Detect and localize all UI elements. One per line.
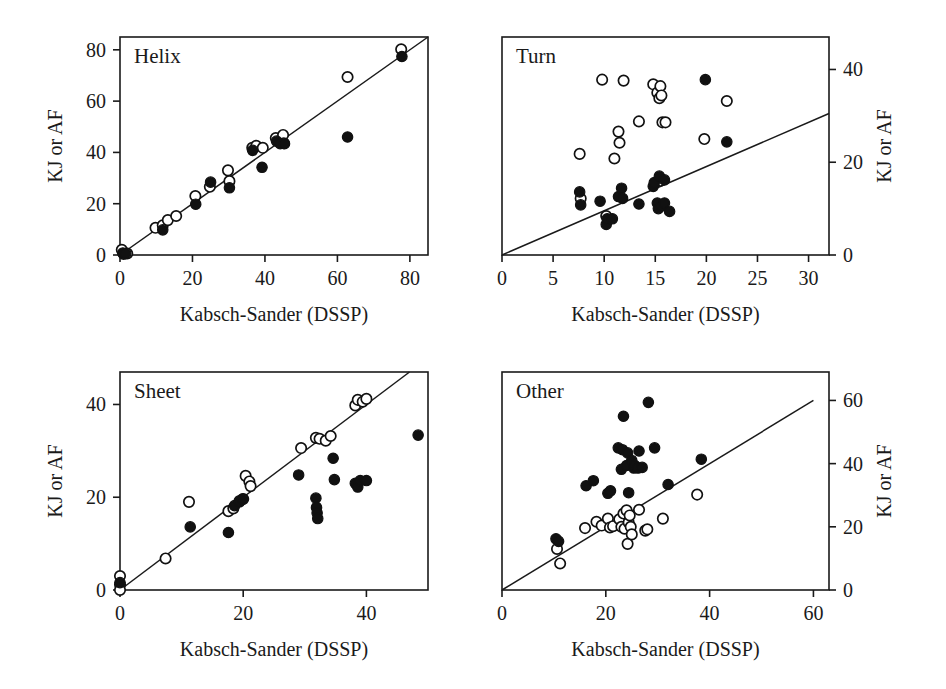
data-point-filled [224,183,234,193]
data-point-filled [574,187,584,197]
data-point-open [325,431,335,441]
data-point-filled [397,51,407,61]
data-point-filled [696,454,706,464]
data-point-filled [616,183,626,193]
data-point-open [658,513,668,523]
data-point-open [642,524,652,534]
y-tick-label: 40 [843,58,863,80]
figure-scatter-grid: 020406080020406080HelixKabsch-Sander (DS… [0,0,946,689]
data-point-open [609,153,619,163]
data-point-filled [588,475,598,485]
data-point-filled [205,177,215,187]
data-point-open [171,211,181,221]
data-point-open [614,138,624,148]
data-point-filled [700,74,710,84]
y-tick-label: 0 [843,579,853,601]
x-tick-label: 20 [182,267,202,289]
x-tick-label: 40 [255,267,275,289]
data-point-filled [664,206,674,216]
y-tick-label: 80 [86,39,106,61]
x-tick-label: 0 [115,602,125,624]
data-point-filled [115,577,125,587]
x-tick-label: 10 [594,267,614,289]
data-point-filled [659,175,669,185]
data-point-filled [663,479,673,489]
data-point-filled [607,214,617,224]
data-point-open [361,394,371,404]
data-point-open [722,96,732,106]
x-tick-label: 0 [497,602,507,624]
y-tick-label: 20 [86,486,106,508]
data-point-open [597,74,607,84]
y-tick-label: 60 [843,389,863,411]
reference-line [502,400,813,590]
y-axis-title: KJ or AF [873,444,895,517]
x-tick-label: 25 [747,267,767,289]
data-point-filled [643,397,653,407]
panel-helix: 020406080020406080HelixKabsch-Sander (DS… [0,0,473,345]
data-point-open [296,443,306,453]
x-tick-label: 40 [356,602,376,624]
x-tick-label: 5 [548,267,558,289]
x-axis-title: Kabsch-Sander (DSSP) [180,638,368,661]
data-point-open [258,143,268,153]
data-point-filled [293,470,303,480]
data-point-filled [158,225,168,235]
panel-title: Other [516,379,564,403]
data-point-filled [623,487,633,497]
y-tick-label: 60 [86,90,106,112]
data-point-filled [279,138,289,148]
data-point-filled [342,132,352,142]
data-point-filled [191,199,201,209]
data-point-filled [649,443,659,453]
data-point-filled [361,475,371,485]
data-point-filled [595,196,605,206]
x-tick-label: 20 [233,602,253,624]
data-point-filled [634,446,644,456]
data-point-open [692,489,702,499]
data-point-filled [185,522,195,532]
data-point-filled [313,513,323,523]
data-point-open [223,165,233,175]
panel-turn: 05101520253002040TurnKabsch-Sander (DSSP… [473,0,946,345]
data-point-filled [223,527,233,537]
y-tick-label: 0 [96,579,106,601]
data-point-open [660,117,670,127]
data-point-filled [553,536,563,546]
plot-frame [502,37,829,255]
data-point-open [656,90,666,100]
data-point-open [574,149,584,159]
data-point-open [699,134,709,144]
y-axis-title: KJ or AF [873,109,895,182]
data-point-open [160,553,170,563]
data-point-filled [328,453,338,463]
x-tick-label: 0 [497,267,507,289]
y-tick-label: 0 [96,244,106,266]
data-point-filled [722,137,732,147]
data-point-filled [237,494,247,504]
x-tick-label: 60 [327,267,347,289]
y-tick-label: 40 [86,141,106,163]
data-point-filled [121,248,131,258]
y-tick-label: 40 [86,393,106,415]
data-point-filled [329,474,339,484]
panel-sheet: 0204002040SheetKabsch-Sander (DSSP)KJ or… [0,345,473,689]
x-tick-label: 40 [700,602,720,624]
y-axis-title: KJ or AF [44,109,66,182]
data-point-open [342,72,352,82]
data-point-filled [617,193,627,203]
data-point-filled [637,462,647,472]
data-point-open [634,505,644,515]
data-point-open [634,116,644,126]
data-point-open [580,523,590,533]
panel-other: 02040600204060OtherKabsch-Sander (DSSP)K… [473,345,946,689]
data-point-filled [605,486,615,496]
x-tick-label: 20 [696,267,716,289]
x-tick-label: 20 [596,602,616,624]
data-point-filled [575,200,585,210]
x-axis-title: Kabsch-Sander (DSSP) [571,303,759,326]
data-point-open [245,481,255,491]
data-point-filled [618,411,628,421]
y-tick-label: 40 [843,453,863,475]
y-tick-label: 0 [843,244,853,266]
